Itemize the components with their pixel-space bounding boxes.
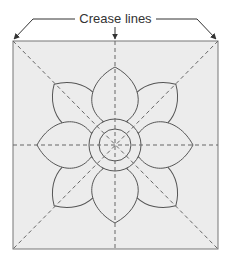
label-text: Crease lines bbox=[75, 11, 155, 26]
crease-lines-label: Crease lines bbox=[0, 11, 231, 27]
crease-diagram bbox=[0, 0, 231, 261]
